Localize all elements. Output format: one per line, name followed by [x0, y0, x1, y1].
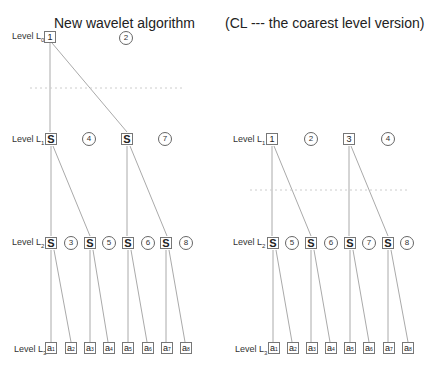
left-l1-circle-2: 7 [158, 132, 172, 146]
right-l2-circle-1: 5 [285, 236, 299, 250]
right-l2-circle-2: 6 [324, 236, 338, 250]
left-panel-title: New wavelet algorithm [54, 15, 195, 31]
left-l2-box-1: S [45, 237, 57, 249]
right-panel-title: (CL --- the coarest level version) [225, 15, 424, 31]
right-l2-box-2: S [305, 237, 317, 249]
left-l2-circle-3: 6 [141, 236, 155, 250]
right-l1-box-1: 1 [266, 133, 278, 145]
left-l0-box: 1 [44, 31, 56, 43]
left-l1-circle-1: 4 [82, 132, 96, 146]
left-l3-box-a6: a6 [142, 342, 154, 354]
left-l2-circle-1: 3 [64, 236, 78, 250]
right-l3-box-a3: a3 [306, 342, 318, 354]
connector-lines [0, 0, 426, 365]
right-l2-box-3: S [344, 237, 356, 249]
right-l2-circle-4: 8 [400, 236, 414, 250]
right-l1-circle-1: 2 [304, 132, 318, 146]
left-l0-circle: 2 [119, 31, 133, 45]
right-l3-box-a1: a1 [268, 342, 280, 354]
right-l3-box-a2: a2 [287, 342, 299, 354]
right-level-l1-label: Level L1 [233, 134, 265, 146]
left-l1-box-1: S [45, 133, 57, 145]
left-l1-box-2: S [121, 133, 133, 145]
right-l1-circle-2: 4 [381, 132, 395, 146]
left-level-l3-label: Level L3 [14, 344, 46, 356]
left-l3-box-a7: a7 [161, 342, 173, 354]
left-l3-box-a4: a4 [103, 342, 115, 354]
left-l3-box-a2: a2 [65, 342, 77, 354]
right-l3-box-a7: a7 [383, 342, 395, 354]
left-l3-box-a5: a5 [122, 342, 134, 354]
right-level-l2-label: Level L2 [233, 237, 265, 249]
left-level-l2-label: Level L2 [12, 237, 44, 249]
right-l2-box-4: S [382, 237, 394, 249]
right-level-l3-label: Level L3 [235, 344, 267, 356]
right-l2-circle-3: 7 [362, 236, 376, 250]
left-l3-box-a8: a8 [180, 342, 192, 354]
left-l2-box-4: S [160, 237, 172, 249]
right-l3-box-a8: a8 [402, 342, 414, 354]
left-level-l1-label: Level L1 [12, 134, 44, 146]
left-l2-circle-2: 5 [102, 236, 116, 250]
left-l3-box-a1: a1 [45, 342, 57, 354]
left-l3-box-a3: a3 [84, 342, 96, 354]
right-l3-box-a5: a5 [344, 342, 356, 354]
right-l1-box-2: 3 [343, 133, 355, 145]
left-l2-box-2: S [84, 237, 96, 249]
right-l2-box-1: S [267, 237, 279, 249]
left-level-l0-label: Level L0 [12, 31, 44, 43]
right-l3-box-a4: a4 [325, 342, 337, 354]
left-l2-box-3: S [122, 237, 134, 249]
right-l3-box-a6: a6 [363, 342, 375, 354]
left-l2-circle-4: 8 [179, 236, 193, 250]
